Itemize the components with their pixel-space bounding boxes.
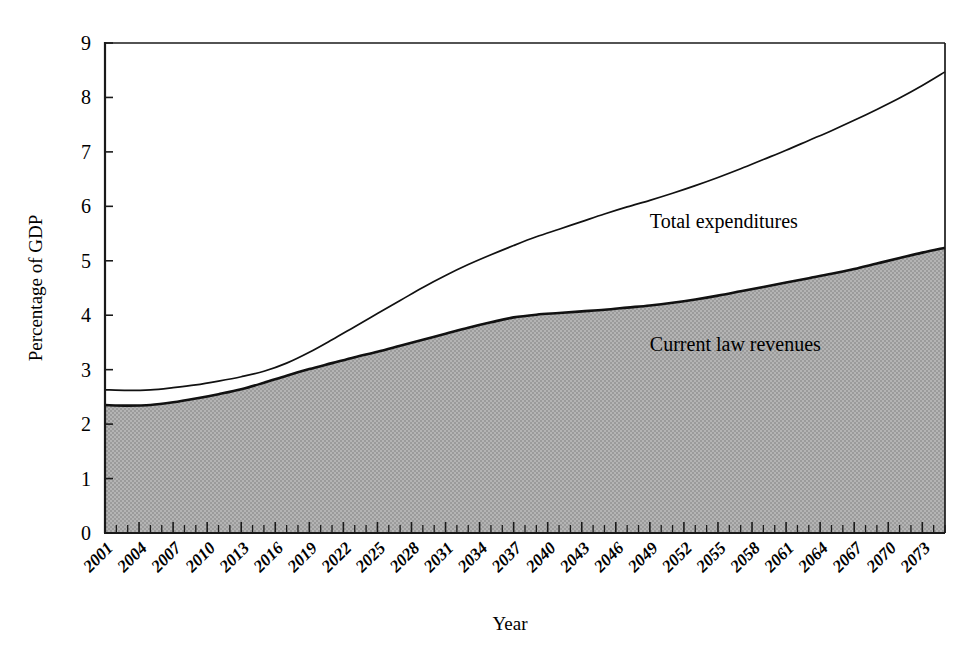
y-tick-label: 0 [81,522,91,544]
annotation-1: Total expenditures [650,210,798,233]
y-axis-title: Percentage of GDP [25,215,46,362]
y-tick-label: 6 [81,195,91,217]
y-tick-label: 1 [81,468,91,490]
y-tick-label: 7 [81,141,91,163]
y-tick-label: 9 [81,32,91,54]
annotation-2: Current law revenues [650,333,821,355]
chart-figure: 0123456789 20012004200720102013201620192… [0,0,977,652]
y-tick-label: 5 [81,250,91,272]
y-tick-label: 4 [81,304,91,326]
x-axis-title: Year [492,613,528,634]
y-tick-label: 2 [81,413,91,435]
y-tick-label: 8 [81,86,91,108]
y-tick-label: 3 [81,359,91,381]
chart-svg: 0123456789 20012004200720102013201620192… [0,0,977,652]
